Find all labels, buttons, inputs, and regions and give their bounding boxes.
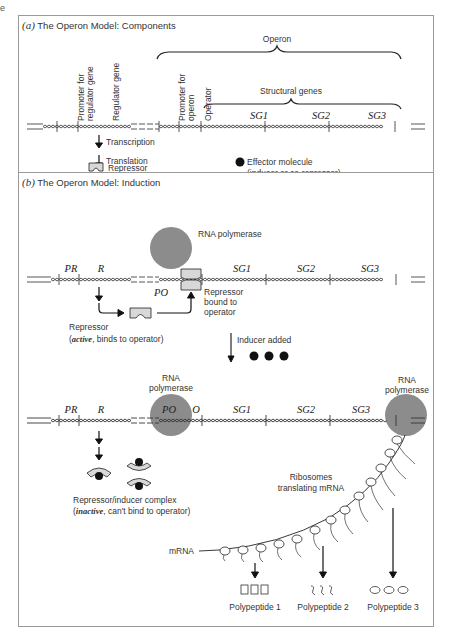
panel-components: (a) The Operon Model: Components Operon …	[18, 15, 434, 174]
polypeptide-1-label: Polypeptide 1	[229, 602, 281, 612]
complex-label: Repressor/inducer complex	[73, 495, 177, 505]
structural-genes-brace	[204, 99, 401, 109]
free-repressor-icon	[130, 308, 151, 318]
svg-text:Regulator gene: Regulator gene	[111, 63, 121, 121]
polypeptide-chains	[223, 444, 415, 562]
ribosome-icons	[220, 436, 402, 555]
ribosomes-label: Ribosomes	[290, 472, 333, 482]
gene-sg3: SG3	[368, 110, 386, 121]
components-diagram: Operon Structural genes Promoter for reg…	[19, 16, 433, 173]
svg-text:regulator gene: regulator gene	[85, 66, 95, 121]
transcription-label: Transcription	[106, 137, 155, 147]
rna-pol-2-label: RNA	[398, 375, 416, 385]
rna-polymerase-1-icon	[150, 394, 192, 436]
gene-sg2: SG2	[312, 110, 331, 121]
gene-sg2-top: SG2	[297, 263, 316, 274]
repressor-active-state: (active, binds to operator)	[69, 334, 164, 344]
rna-polymerase-2-icon	[385, 394, 427, 436]
polypeptide-2-icon	[311, 586, 333, 595]
mrna-strand	[199, 435, 405, 551]
gene-sg1-top: SG1	[233, 263, 251, 274]
gene-pr-bottom: PR	[64, 404, 78, 415]
polypeptide-2-label: Polypeptide 2	[297, 602, 349, 612]
repressor-bound-label-3: operator	[204, 307, 236, 317]
inducer-molecules-icon	[250, 352, 289, 361]
mrna-label: mRNA	[169, 546, 194, 556]
structural-genes-label: Structural genes	[260, 86, 322, 96]
panel-induction: (b) The Operon Model: Induction RNA poly…	[18, 172, 434, 627]
repressor-icon	[89, 163, 103, 171]
repressor-bound-label-1: Repressor	[204, 287, 243, 297]
gene-po-bottom: PO	[161, 404, 176, 415]
edge-text-fragment: e	[0, 3, 5, 13]
vertical-label-regulator-gene: Regulator gene	[111, 63, 121, 121]
repressor-inducer-complex-icon	[87, 458, 151, 490]
gene-sg2-bottom: SG2	[297, 404, 316, 415]
gene-r-top: R	[97, 263, 105, 274]
complex-arrows	[96, 431, 103, 460]
polypeptide-arrows	[252, 508, 397, 578]
vertical-label-promoter-operon: Promoter for operon	[177, 74, 196, 121]
gene-sg1-bottom: SG1	[233, 404, 251, 415]
vertical-label-operator: Operator	[203, 87, 213, 121]
polypeptide-3-label: Polypeptide 3	[367, 602, 419, 612]
polypeptide-3-icon	[370, 587, 408, 594]
gene-pr-top: PR	[64, 263, 78, 274]
svg-text:Operator: Operator	[203, 87, 213, 121]
dna-strand-a	[27, 121, 425, 132]
rna-polymerase-icon	[150, 227, 192, 269]
gene-sg1: SG1	[250, 110, 268, 121]
rna-pol-2-sublabel: polymerase	[385, 385, 429, 395]
rna-pol-1-label: RNA	[162, 373, 180, 383]
operon-brace	[157, 46, 401, 59]
rna-pol-1-sublabel: polymerase	[149, 383, 193, 393]
complex-state: (inactive, can't bind to operator)	[73, 506, 191, 516]
svg-text:operon: operon	[186, 94, 196, 121]
inducer-arrow-icon	[228, 333, 234, 362]
dna-strand-bottom	[27, 415, 425, 426]
dna-strand-top	[27, 274, 425, 285]
repressor-active-label: Repressor	[69, 322, 108, 332]
gene-r-bottom: R	[97, 404, 105, 415]
operon-label: Operon	[263, 34, 292, 44]
effector-molecule-icon	[236, 158, 245, 167]
inducer-added-label: Inducer added	[237, 335, 292, 345]
polypeptide-1-icon	[241, 585, 268, 594]
effector-label: Effector molecule	[247, 157, 313, 167]
gene-sg3-bottom: SG3	[352, 404, 370, 415]
ribosomes-sublabel: translating mRNA	[278, 483, 345, 493]
vertical-label-promoter-regulator: Promoter for regulator gene	[76, 66, 95, 121]
repressor-bound-label-2: bound to	[204, 297, 237, 307]
gene-o-bottom: O	[192, 404, 200, 415]
induction-diagram: RNA polymerase PR R PO SG1 SG2 SG3 Repre…	[19, 173, 433, 626]
gene-po-top: PO	[153, 287, 168, 298]
rna-polymerase-label: RNA polymerase	[198, 229, 262, 239]
gene-sg3-top: SG3	[361, 263, 379, 274]
